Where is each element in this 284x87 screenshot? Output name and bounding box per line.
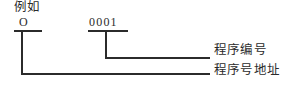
leader-line-program-number: [106, 31, 210, 58]
callout-label-program-number-address: 程序号地址: [214, 64, 280, 77]
program-number-annotation-figure: 例如 O 0001 程序编号 程序号地址: [0, 0, 284, 87]
callout-label-program-number: 程序编号: [214, 44, 267, 57]
leader-line-program-number-address: [22, 31, 210, 74]
